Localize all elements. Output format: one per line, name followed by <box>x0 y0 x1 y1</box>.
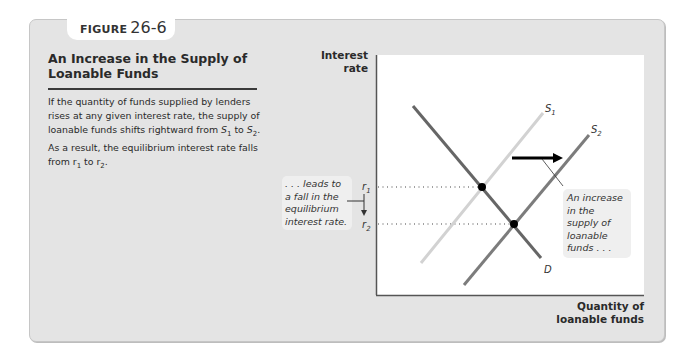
chart-svg: r1 r2 S1 S2 D <box>0 0 696 356</box>
r2-label: r2 <box>362 219 371 233</box>
s2-label: S2 <box>591 124 602 138</box>
arrow-right-icon <box>553 153 563 163</box>
equilibrium-point-1 <box>478 183 486 191</box>
d-label: D <box>544 264 552 275</box>
demand-curve <box>413 106 541 258</box>
r1-label: r1 <box>362 181 371 195</box>
callout-leader-line <box>542 159 563 186</box>
arrow-down-icon <box>361 210 367 216</box>
s1-label: S1 <box>545 103 556 117</box>
equilibrium-point-2 <box>510 220 518 228</box>
